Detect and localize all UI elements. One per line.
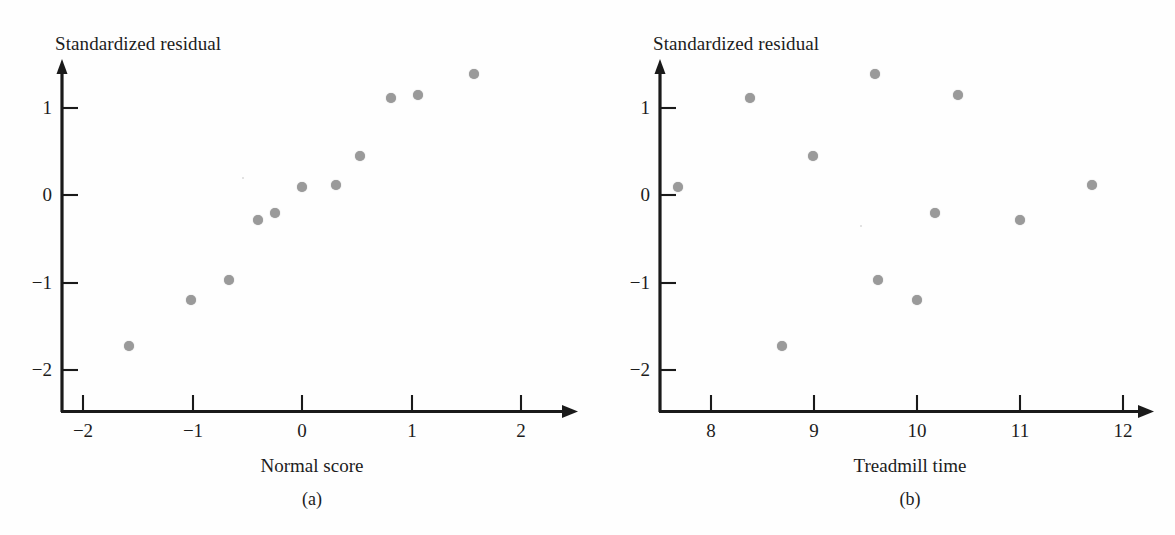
- scatter-point: [808, 151, 818, 161]
- scatter-point: [912, 295, 922, 305]
- x-tick-label: 11: [980, 420, 1060, 442]
- figure-root: Standardized residual 1 0 −1 −2 −2: [0, 0, 1175, 535]
- x-tick-label: 0: [262, 420, 342, 442]
- x-tick-label: −2: [43, 420, 123, 442]
- x-tick-label: 1: [372, 420, 452, 442]
- paper-speck: [860, 225, 862, 227]
- scatter-point: [270, 208, 280, 218]
- y-tick-label: 1: [0, 97, 52, 119]
- x-tick-label: 12: [1083, 420, 1163, 442]
- scatter-point: [355, 151, 365, 161]
- panel-caption-b: (b): [850, 489, 970, 510]
- x-axis-title: Normal score: [192, 455, 432, 477]
- scatter-point: [224, 275, 234, 285]
- paper-speck: [242, 177, 244, 179]
- y-tick-label: 1: [598, 97, 650, 119]
- x-axis-title: Treadmill time: [790, 455, 1030, 477]
- y-tick-label: 0: [0, 184, 52, 206]
- scatter-point: [930, 208, 940, 218]
- x-tick-label: 9: [774, 420, 854, 442]
- x-tick-label: 10: [877, 420, 957, 442]
- y-tick-label: −1: [0, 272, 52, 294]
- y-tick-label: −2: [598, 359, 650, 381]
- y-tick-label: −2: [0, 359, 52, 381]
- scatter-panel-a: Standardized residual 1 0 −1 −2 −2: [0, 0, 590, 535]
- panel-caption-a: (a): [252, 489, 372, 510]
- scatter-panel-b: Standardized residual 1 0 −1 −2 8: [590, 0, 1175, 535]
- scatter-point: [253, 215, 263, 225]
- y-tick-label: −1: [598, 272, 650, 294]
- scatter-point: [873, 275, 883, 285]
- x-tick-label: 2: [481, 420, 561, 442]
- scatter-point: [386, 93, 396, 103]
- scatter-point: [1015, 215, 1025, 225]
- x-tick-label: 8: [671, 420, 751, 442]
- x-tick-label: −1: [153, 420, 233, 442]
- y-tick-label: 0: [598, 184, 650, 206]
